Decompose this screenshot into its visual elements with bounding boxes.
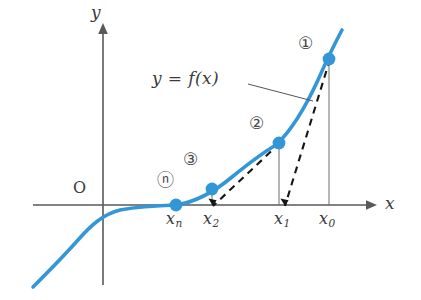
function-label-leader-line [248, 84, 313, 101]
x-tick-base-x0: x [319, 209, 328, 228]
origin-label: O [73, 180, 86, 196]
drop-lines-group [212, 60, 329, 205]
x-tick-base-xn: x [166, 209, 175, 228]
point-x2 [206, 183, 219, 196]
x-axis-arrowhead [366, 200, 377, 210]
x-tick-base-x2: x [203, 209, 212, 228]
point-x0 [323, 53, 336, 66]
step-marker-n: ⓝ [157, 172, 174, 189]
tangent-at-x1 [213, 143, 280, 206]
x-tick-label-xn: xn [166, 211, 182, 227]
x-axis-label: x [385, 195, 395, 212]
x-tick-sub-x2: 2 [213, 217, 220, 229]
x-tick-label-x1: x1 [274, 211, 290, 227]
x-tick-sub-x0: 0 [329, 217, 336, 229]
x-tick-sub-x1: 1 [284, 217, 291, 229]
x-tick-label-x2: x2 [203, 211, 219, 227]
x-tick-label-x0: x0 [319, 211, 335, 227]
point-x1 [273, 137, 286, 150]
newton-method-diagram [0, 0, 421, 300]
figure-root: y x O y = f(x) ① ② ③ ⓝ xn x2 x1 x0 [0, 0, 421, 300]
y-axis-group [98, 23, 108, 285]
function-label: y = f(x) [152, 70, 219, 87]
step-marker-2: ② [249, 115, 264, 132]
step-marker-1: ① [298, 35, 313, 52]
x-tick-sub-xn: n [176, 217, 183, 229]
y-axis-arrowhead [98, 23, 108, 34]
y-axis-label: y [91, 4, 101, 21]
step-marker-3: ③ [183, 151, 198, 168]
tangent-at-x0 [285, 59, 330, 206]
tangent-lines-group [213, 59, 330, 206]
x-tick-base-x1: x [274, 209, 283, 228]
